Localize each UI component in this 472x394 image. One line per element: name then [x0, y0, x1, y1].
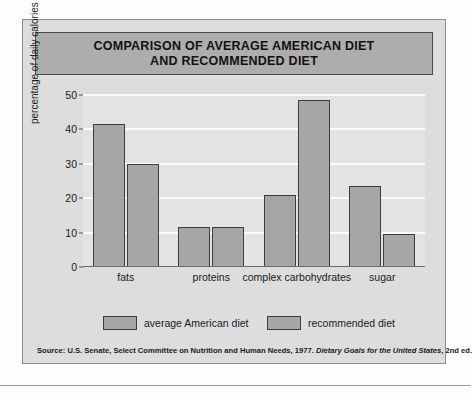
- legend-label: recommended diet: [308, 317, 395, 329]
- y-axis-label-text: percentage of daily calories: [29, 2, 40, 124]
- x-axis-category-label: fats: [117, 271, 134, 283]
- legend-swatch: [267, 316, 301, 330]
- page-title-line-2: AND RECOMMENDED DIET: [150, 54, 318, 69]
- y-axis-tick-mark: [79, 95, 83, 96]
- bottom-divider: [0, 385, 471, 386]
- legend-label: average American diet: [144, 317, 248, 329]
- legend: average American dietrecommended diet: [35, 316, 433, 336]
- x-axis-category-label: complex carbohydrates: [242, 271, 351, 283]
- y-axis-tick-mark: [79, 198, 83, 199]
- page-title-line-1: COMPARISON OF AVERAGE AMERICAN DIET: [94, 39, 375, 54]
- gridline: [83, 128, 425, 130]
- y-axis-tick-label: 40: [65, 123, 77, 135]
- y-axis-tick-mark: [79, 232, 83, 233]
- plot-area: 01020304050 fatsproteinscomplex carbohyd…: [83, 95, 425, 267]
- bar: [93, 124, 125, 267]
- legend-item[interactable]: recommended diet: [267, 316, 395, 330]
- y-axis-tick-label: 20: [65, 192, 77, 204]
- source-prefix: Source: U.S. Senate, Select Committee on…: [37, 346, 316, 355]
- legend-item[interactable]: average American diet: [103, 316, 248, 330]
- bar: [127, 164, 159, 267]
- gridline: [83, 94, 425, 96]
- chart-title-banner: COMPARISON OF AVERAGE AMERICAN DIET AND …: [35, 32, 433, 75]
- y-axis-label: percentage of daily calories: [29, 8, 40, 124]
- y-axis-tick-label: 10: [65, 227, 77, 239]
- bar: [298, 100, 330, 267]
- y-axis-tick-mark: [79, 129, 83, 130]
- bar: [349, 186, 381, 267]
- source-italic-title: Dietary Goals for the United States: [316, 346, 441, 355]
- x-axis-category-label: sugar: [369, 271, 395, 283]
- chart-area: percentage of daily calories 01020304050…: [35, 86, 433, 301]
- bar: [212, 227, 244, 267]
- source-note: Source: U.S. Senate, Select Committee on…: [37, 346, 433, 355]
- y-axis-tick-label: 50: [65, 89, 77, 101]
- y-axis-tick-label: 0: [71, 261, 77, 273]
- x-axis-category-label: proteins: [193, 271, 230, 283]
- legend-swatch: [103, 316, 137, 330]
- y-axis-tick-mark: [79, 163, 83, 164]
- x-axis-line: [83, 266, 425, 267]
- source-suffix: , 2nd ed.: [441, 346, 472, 355]
- y-axis-tick-label: 30: [65, 158, 77, 170]
- chart-panel: COMPARISON OF AVERAGE AMERICAN DIET AND …: [22, 19, 446, 364]
- bar: [178, 227, 210, 267]
- bar: [383, 234, 415, 267]
- bar: [264, 195, 296, 267]
